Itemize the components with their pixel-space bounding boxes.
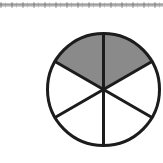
fraction-circle-figure xyxy=(0,0,163,163)
fraction-diagram-page xyxy=(0,0,163,163)
shaded-sector xyxy=(55,34,103,90)
shaded-sector xyxy=(104,34,152,90)
